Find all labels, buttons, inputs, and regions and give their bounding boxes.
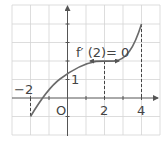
- y-label-1: 1: [71, 72, 79, 87]
- function-graph: −2 O 2 4 1 f′ (2)= 0: [0, 0, 165, 141]
- x-label-4: 4: [137, 103, 145, 118]
- derivative-annotation: f′ (2)= 0: [76, 45, 129, 60]
- x-label-minus2: −2: [14, 82, 33, 97]
- origin-label: O: [56, 103, 66, 118]
- x-label-2: 2: [100, 103, 108, 118]
